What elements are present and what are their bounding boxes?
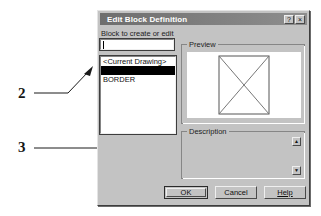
description-label: Description <box>187 127 229 136</box>
preview-group: Preview <box>181 44 305 124</box>
edit-block-definition-dialog: Edit Block Definition ? × Block to creat… <box>97 10 310 206</box>
text-caret <box>103 41 104 49</box>
help-titlebar-button[interactable]: ? <box>284 15 294 24</box>
cancel-button[interactable]: Cancel <box>215 186 257 199</box>
scroll-down-icon[interactable]: ▼ <box>292 166 301 175</box>
list-item[interactable]: BORDER <box>101 75 175 84</box>
ok-button-label: OK <box>181 188 192 197</box>
block-name-input[interactable] <box>100 39 174 50</box>
ok-button[interactable]: OK <box>164 186 208 199</box>
annotation-number-2: 2 <box>18 86 26 101</box>
block-list[interactable]: <Current Drawing> BORDER <box>100 56 176 134</box>
description-group: Description ▲ ▼ <box>181 131 305 179</box>
dialog-title: Edit Block Definition <box>107 15 187 24</box>
block-name-label: Block to create or edit <box>101 29 174 38</box>
annotation-number-3: 3 <box>18 140 26 155</box>
preview-label: Preview <box>187 40 218 49</box>
help-button-label: Help <box>277 188 292 197</box>
block-preview-icon <box>187 52 301 118</box>
list-item[interactable] <box>101 66 175 75</box>
dialog-titlebar[interactable]: Edit Block Definition ? × <box>100 13 307 25</box>
cancel-button-label: Cancel <box>224 188 247 197</box>
description-scrollbar[interactable]: ▲ ▼ <box>292 137 301 175</box>
list-item[interactable]: <Current Drawing> <box>101 57 175 66</box>
titlebar-button-group: ? × <box>284 15 305 24</box>
description-textarea[interactable] <box>185 137 291 175</box>
help-button[interactable]: Help <box>264 186 306 199</box>
scroll-up-icon[interactable]: ▲ <box>292 137 301 146</box>
close-titlebar-button[interactable]: × <box>295 15 305 24</box>
preview-canvas <box>187 52 301 118</box>
